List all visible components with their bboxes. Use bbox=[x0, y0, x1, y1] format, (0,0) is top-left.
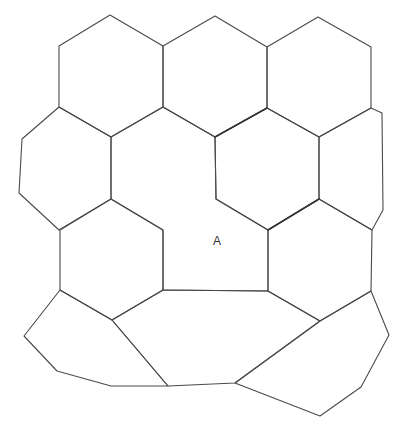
cell-label-a: A bbox=[213, 234, 221, 248]
edge-emphasis-1 bbox=[215, 108, 267, 137]
cell-hex-lower-left bbox=[60, 199, 163, 320]
cell-diagram: A bbox=[0, 0, 404, 432]
cell-hex-lower-right bbox=[268, 199, 372, 321]
cell-outlines bbox=[19, 15, 389, 416]
cell-hex-top-left bbox=[59, 15, 163, 137]
cell-a bbox=[111, 107, 268, 291]
cell-hex-top-middle bbox=[163, 16, 267, 137]
edge-emphasis-2 bbox=[268, 199, 319, 230]
cell-hex-top-right bbox=[267, 17, 371, 137]
cell-hex-middle-right bbox=[215, 108, 319, 230]
cell-bottom-left bbox=[24, 290, 168, 386]
cell-bottom-right bbox=[235, 291, 389, 416]
cell-pentagon-right-edge bbox=[319, 108, 383, 230]
cell-hex-middle-left bbox=[19, 107, 111, 230]
cell-bottom-middle bbox=[112, 290, 320, 386]
